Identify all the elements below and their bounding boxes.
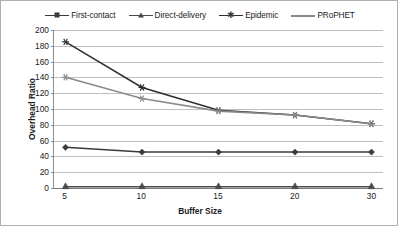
y-axis-tick-label: 40 (40, 151, 49, 161)
star-marker-icon: ✱ (227, 11, 235, 20)
y-axis-tick-label: 160 (35, 57, 49, 67)
series-epidemic (62, 39, 375, 127)
chart-legend: First-contact Direct-delivery ✱ Epidemic… (1, 7, 398, 23)
y-axis-tick-label: 100 (35, 104, 49, 114)
series-first-contact (62, 144, 374, 155)
series-prophet (62, 74, 375, 127)
triangle-marker-icon (138, 12, 144, 17)
x-axis-tick-label: 20 (290, 191, 299, 201)
y-axis-title-holder: Overhead Ratio (7, 30, 21, 188)
legend-item-epidemic[interactable]: ✱ Epidemic (219, 10, 278, 20)
y-axis-tick-label: 80 (40, 120, 49, 130)
x-axis-tick-labels: 510152030 (53, 191, 383, 205)
epidemic-series-swatch: ✱ (219, 10, 243, 20)
x-axis-title: Buffer Size (1, 206, 398, 216)
legend-label-direct-delivery: Direct-delivery (155, 11, 207, 20)
x-axis-tick-label: 30 (367, 191, 376, 201)
legend-item-direct-delivery[interactable]: Direct-delivery (129, 10, 207, 20)
legend-label-prophet: PRoPHET (317, 11, 354, 20)
y-axis-tick-label: 20 (40, 167, 49, 177)
y-axis-tick-label: 60 (40, 136, 49, 146)
plot-area: 020406080100120140160180200 (53, 30, 383, 188)
x-axis-tick-label: 15 (213, 191, 222, 201)
y-axis-tick-label: 0 (44, 183, 49, 193)
first-contact-series-swatch (45, 10, 69, 20)
direct-delivery-series-swatch (129, 10, 153, 20)
legend-label-first-contact: First-contact (71, 11, 115, 20)
legend-label-epidemic: Epidemic (245, 11, 278, 20)
x-axis-tick-label: 10 (137, 191, 146, 201)
y-axis-tick-label: 120 (35, 88, 49, 98)
plot-wrapper: 020406080100120140160180200 (53, 30, 383, 188)
x-axis-tick-label: 5 (62, 191, 67, 201)
series-overlay (54, 30, 383, 188)
diamond-marker-icon (55, 13, 60, 18)
y-axis-tick-label: 140 (35, 72, 49, 82)
legend-item-prophet[interactable]: PRoPHET (291, 10, 354, 20)
overhead-ratio-line-chart: First-contact Direct-delivery ✱ Epidemic… (0, 0, 398, 226)
prophet-series-swatch (291, 10, 315, 20)
y-axis-tick-mark (51, 188, 54, 189)
legend-item-first-contact[interactable]: First-contact (45, 10, 115, 20)
y-axis-tick-label: 200 (35, 25, 49, 35)
y-axis-tick-label: 180 (35, 41, 49, 51)
